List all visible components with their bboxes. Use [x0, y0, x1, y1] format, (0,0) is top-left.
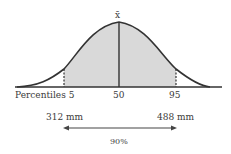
- tick-label-p5: 5: [69, 90, 75, 100]
- range-percent-label: 90%: [110, 137, 128, 147]
- tick-label-p95: 95: [169, 90, 180, 100]
- mean-label: x̄: [115, 10, 120, 20]
- upper-value-label: 488 mm: [157, 112, 194, 122]
- percentiles-prefix: Percentiles: [15, 90, 66, 100]
- shaded-90-percent-area: [64, 22, 176, 87]
- arrow-head-right-icon: [171, 126, 177, 131]
- normal-distribution-chart: [0, 0, 231, 154]
- lower-value-label: 312 mm: [46, 112, 83, 122]
- percentiles-axis-label: Percentiles 5: [15, 90, 74, 100]
- arrow-head-left-icon: [63, 126, 69, 131]
- tick-label-p50: 50: [113, 90, 124, 100]
